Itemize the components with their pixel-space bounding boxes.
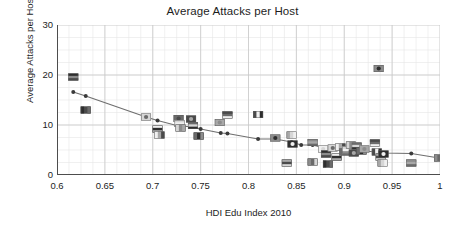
flag-marker <box>222 112 232 119</box>
flag-marker <box>215 119 225 126</box>
flag-marker <box>253 111 263 118</box>
flag-marker <box>374 65 384 72</box>
flag-marker <box>308 159 318 166</box>
y-tick-label: 0 <box>29 170 53 180</box>
flag-marker <box>141 114 151 121</box>
flag-marker <box>270 135 280 142</box>
flag-marker <box>321 151 331 158</box>
flag-marker <box>186 116 196 123</box>
x-tick-label: 0.95 <box>372 180 412 191</box>
flag-marker <box>323 161 333 168</box>
flag-markers <box>68 65 440 168</box>
x-tick-label: 0.85 <box>276 180 316 191</box>
flag-marker <box>288 141 298 148</box>
x-tick-label: 0.65 <box>85 180 125 191</box>
chart-title: Average Attacks per Host <box>0 5 465 17</box>
x-tick-label: 1 <box>420 180 460 191</box>
y-axis-tick-labels: 0102030 <box>26 25 53 175</box>
flag-marker <box>287 132 297 139</box>
flag-marker <box>81 107 91 114</box>
x-axis-tick-labels: 0.60.650.70.750.80.850.90.951 <box>57 180 440 194</box>
y-tick-label: 30 <box>29 20 53 30</box>
chart-container: Average Attacks per Host Average Attacks… <box>0 0 465 228</box>
x-tick-label: 0.8 <box>229 180 269 191</box>
x-tick-label: 0.7 <box>133 180 173 191</box>
flag-marker <box>188 122 198 129</box>
plot-svg <box>57 25 440 175</box>
flag-marker <box>194 133 204 140</box>
flag-marker <box>406 160 416 167</box>
y-tick-label: 20 <box>29 70 53 80</box>
x-tick-label: 0.6 <box>37 180 77 191</box>
flag-marker <box>68 74 78 81</box>
flag-marker <box>379 151 389 158</box>
y-tick-label: 10 <box>29 120 53 130</box>
x-axis-label: HDI Edu Index 2010 <box>57 207 440 218</box>
flag-marker <box>359 146 369 153</box>
x-tick-label: 0.9 <box>324 180 364 191</box>
flag-marker <box>378 160 388 167</box>
flag-marker <box>153 126 163 133</box>
x-tick-label: 0.75 <box>181 180 221 191</box>
flag-marker <box>308 139 318 146</box>
flag-marker <box>176 125 186 132</box>
flag-marker <box>370 140 380 147</box>
plot-area <box>57 25 440 175</box>
flag-marker <box>434 155 440 162</box>
flag-marker <box>154 132 164 139</box>
flag-marker <box>282 160 292 167</box>
